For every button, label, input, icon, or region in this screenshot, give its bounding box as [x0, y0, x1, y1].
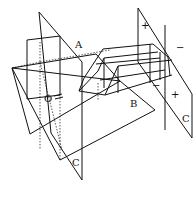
- label-C-right: C: [182, 113, 190, 124]
- label-A: A: [74, 39, 83, 50]
- sign-top-right: −: [176, 42, 184, 53]
- label-O: O: [44, 93, 52, 104]
- label-C-left: C: [72, 157, 80, 168]
- horizontal-plane-lower: [12, 68, 155, 160]
- sign-bottom-right: +: [171, 89, 179, 100]
- diagram-canvas: A B O C C + − − +: [0, 0, 195, 204]
- frontal-plane: [27, 36, 60, 99]
- label-B: B: [130, 98, 137, 109]
- sign-top-left: +: [141, 20, 149, 31]
- sign-bottom-left: −: [152, 80, 160, 91]
